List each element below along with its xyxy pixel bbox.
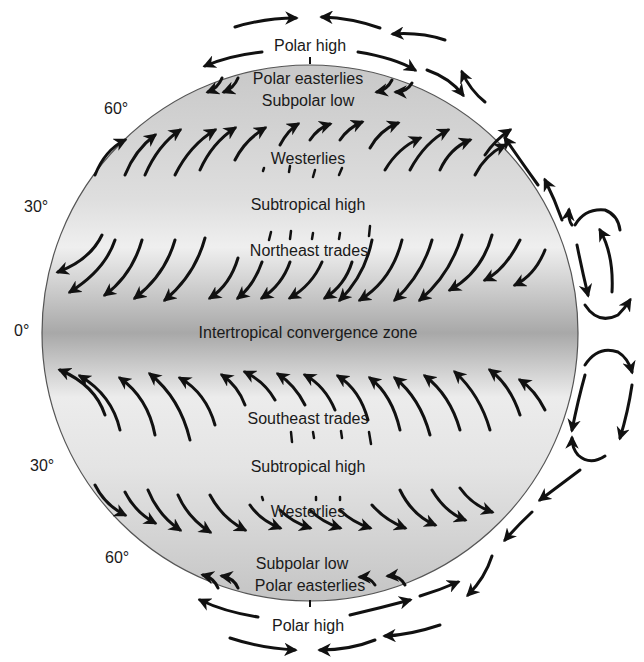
latitude-label-equator: 0° (14, 322, 29, 340)
label-westerlies-south: Westerlies (271, 503, 345, 521)
label-subpolar-low-south: Subpolar low (256, 555, 349, 573)
label-polar-easterlies-south: Polar easterlies (255, 577, 365, 595)
label-polar-high-south: Polar high (272, 617, 344, 635)
latitude-label-30s: 30° (30, 457, 54, 475)
label-southeast-trades: Southeast trades (248, 410, 369, 428)
label-subtropical-high-south: Subtropical high (251, 458, 366, 476)
label-subpolar-low-north: Subpolar low (262, 92, 355, 110)
label-northeast-trades: Northeast trades (250, 242, 368, 260)
label-subtropical-high-north: Subtropical high (251, 196, 366, 214)
latitude-label-60n: 60° (104, 100, 128, 118)
label-polar-easterlies-north: Polar easterlies (253, 70, 363, 88)
latitude-label-30n: 30° (24, 198, 48, 216)
label-westerlies-north: Westerlies (271, 150, 345, 168)
label-polar-high-north: Polar high (274, 37, 346, 55)
latitude-label-60s: 60° (105, 549, 129, 567)
label-itcz: Intertropical convergence zone (199, 324, 418, 342)
